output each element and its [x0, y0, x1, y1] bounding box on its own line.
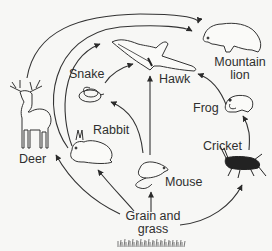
label-snake: Snake: [69, 68, 104, 81]
label-mountain-lion-line2: lion: [209, 69, 271, 82]
label-rabbit: Rabbit: [93, 124, 129, 137]
food-web-diagram: Mountain lion Hawk Snake Frog Deer Rabbi…: [0, 0, 272, 251]
label-mouse: Mouse: [165, 176, 203, 189]
mouse-icon: [136, 162, 168, 189]
snake-icon: [79, 87, 104, 102]
hawk-icon: [112, 40, 196, 71]
label-mountain-lion: Mountain lion: [209, 56, 271, 82]
label-deer: Deer: [19, 153, 46, 166]
grass-icon: [118, 239, 185, 247]
deer-icon: [10, 80, 51, 148]
label-hawk: Hawk: [159, 73, 190, 86]
arrow-snake-to-hawk: [105, 64, 133, 83]
arrow-cricket-to-frog: [243, 116, 249, 150]
label-grain-line2: grass: [120, 223, 186, 236]
label-frog: Frog: [193, 102, 219, 115]
mountain-lion-icon: [203, 23, 260, 52]
frog-icon: [225, 95, 253, 112]
arrow-grain-to-cricket: [180, 185, 242, 225]
label-cricket: Cricket: [203, 140, 242, 153]
label-grain-and-grass: Grain and grass: [120, 210, 186, 236]
